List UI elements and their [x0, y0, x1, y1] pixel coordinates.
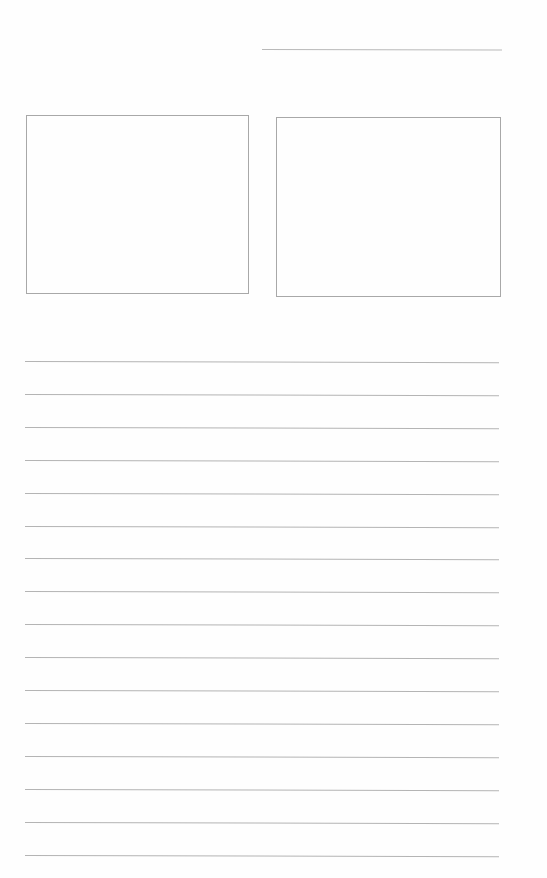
- writing-line[interactable]: [25, 591, 499, 593]
- writing-line[interactable]: [25, 756, 499, 758]
- writing-line[interactable]: [25, 460, 499, 462]
- writing-line[interactable]: [25, 526, 499, 528]
- writing-line[interactable]: [25, 690, 499, 692]
- writing-line[interactable]: [25, 789, 499, 791]
- writing-line[interactable]: [25, 822, 499, 824]
- writing-line[interactable]: [25, 394, 499, 396]
- writing-line[interactable]: [25, 361, 499, 363]
- worksheet-page: [0, 0, 547, 878]
- writing-line[interactable]: [25, 558, 499, 560]
- picture-box-right[interactable]: [276, 117, 501, 297]
- name-line[interactable]: [262, 49, 502, 50]
- writing-line[interactable]: [25, 855, 499, 857]
- writing-line[interactable]: [25, 657, 499, 659]
- writing-line[interactable]: [25, 493, 499, 495]
- writing-line[interactable]: [25, 427, 499, 429]
- picture-box-left[interactable]: [26, 115, 249, 294]
- writing-line[interactable]: [25, 624, 499, 626]
- writing-line[interactable]: [25, 723, 499, 725]
